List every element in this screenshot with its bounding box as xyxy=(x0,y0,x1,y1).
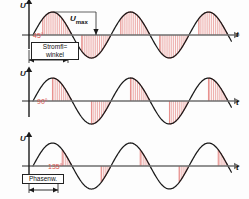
dimension-arrow-left xyxy=(29,188,34,193)
phasenwinkel-line1: Phasenw. xyxy=(24,175,62,183)
panel-45: U t 45° Umax Stromfl= winkel xyxy=(0,0,249,66)
panel-45-angle-label: 45° xyxy=(33,32,44,39)
panel-90-t-axis-label: t xyxy=(236,98,239,107)
panel-135-angle-label: 135° xyxy=(48,163,62,170)
u-axis-arrowhead xyxy=(26,0,32,4)
figure-root: U t 45° Umax Stromfl= winkel U t 90° U t… xyxy=(0,0,249,199)
panel-135-u-axis-label: U xyxy=(20,134,26,143)
stromflusswinkel-line1: Stromfl= xyxy=(33,43,77,51)
panel-135-t-axis-label: t xyxy=(236,163,239,172)
conduction-envelope xyxy=(53,78,72,100)
umax-arrowhead xyxy=(93,29,98,35)
umax-label: Umax xyxy=(70,14,88,25)
panel-90-angle-label: 90° xyxy=(37,98,48,105)
panel-135: U t 135° Phasenw. xyxy=(0,132,249,199)
panel-90: U t 90° xyxy=(0,66,249,132)
panel-45-t-axis-label: t xyxy=(236,30,239,39)
panel-135-plot xyxy=(0,132,249,199)
stromflusswinkel-line2: winkel xyxy=(33,51,77,59)
panel-90-graphics xyxy=(22,67,240,125)
dimension-arrow-right xyxy=(53,188,58,193)
stromflusswinkel-box: Stromfl= winkel xyxy=(31,42,79,60)
u-axis-arrowhead xyxy=(26,67,32,73)
panel-90-u-axis-label: U xyxy=(20,69,26,78)
phasenwinkel-box: Phasenw. xyxy=(22,174,64,184)
panel-45-u-axis-label: U xyxy=(20,1,26,10)
u-axis-arrowhead xyxy=(26,132,32,137)
